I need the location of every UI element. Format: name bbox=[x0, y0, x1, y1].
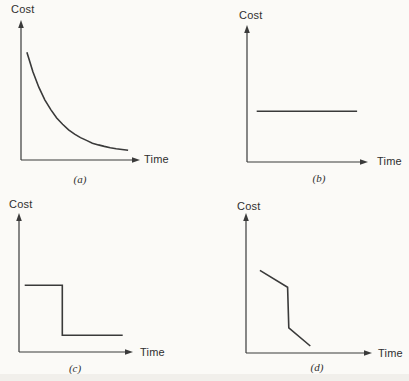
panel-caption: (c) bbox=[69, 362, 81, 374]
panel-d: Cost Time (d) bbox=[205, 190, 409, 381]
panel-a: Cost Time (a) bbox=[0, 0, 204, 191]
x-axis-label: Time bbox=[144, 153, 169, 165]
y-axis-label: Cost bbox=[9, 198, 32, 210]
x-axis-label: Time bbox=[377, 155, 402, 167]
chart-canvas-c bbox=[0, 190, 204, 381]
panel-caption: (d) bbox=[311, 361, 324, 373]
panel-b: Cost Time (b) bbox=[205, 0, 409, 191]
panel-caption: (b) bbox=[313, 172, 326, 184]
y-axis-label: Cost bbox=[11, 3, 34, 15]
x-axis-label: Time bbox=[378, 347, 403, 359]
chart-canvas-a bbox=[0, 0, 204, 191]
scan-artifact-band bbox=[0, 374, 409, 381]
figure-grid: Cost Time (a) Cost Time (b) Cost Time (c… bbox=[0, 0, 409, 381]
panel-caption: (a) bbox=[74, 173, 87, 185]
y-axis-label: Cost bbox=[237, 200, 260, 212]
y-axis-label: Cost bbox=[239, 9, 262, 21]
x-axis-label: Time bbox=[140, 346, 165, 358]
panel-c: Cost Time (c) bbox=[0, 190, 204, 381]
